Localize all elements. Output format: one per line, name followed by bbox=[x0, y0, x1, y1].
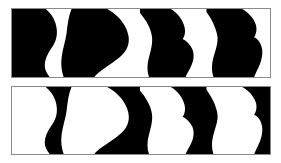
figure-ground-illusion-figure bbox=[0, 0, 281, 163]
lower-panel bbox=[11, 86, 271, 155]
lower-panel-artwork bbox=[12, 87, 270, 154]
upper-panel-artwork bbox=[12, 9, 270, 77]
upper-panel bbox=[11, 8, 271, 78]
